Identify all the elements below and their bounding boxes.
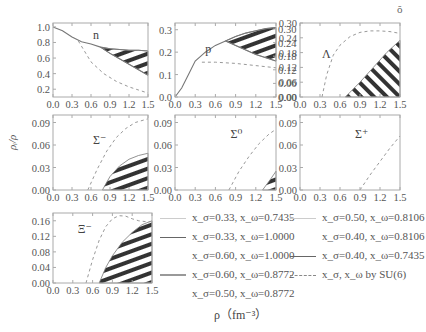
y-tick-label: 0.06 — [279, 140, 297, 151]
x-tick-label: 0.6 — [84, 99, 97, 110]
panel-label: p — [205, 42, 211, 56]
su6-dashed-line — [202, 62, 276, 68]
legend-line-swatch — [160, 294, 186, 295]
legend-line-swatch — [290, 256, 316, 257]
legend-entry: x_σ=0.40, x_ω=0.7435 — [290, 249, 425, 261]
x-tick-label: 0.3 — [189, 192, 202, 203]
x-tick-label: 0.3 — [313, 192, 326, 203]
legend-entry: x_σ=0.40, x_ω=0.8106 — [290, 230, 425, 242]
y-tick-label: 0.09 — [32, 118, 50, 129]
y-tick-label: 0.00 — [279, 185, 297, 196]
panel-label: Σ⁺ — [355, 127, 368, 141]
hatched-band — [345, 40, 400, 97]
legend-line-swatch — [160, 256, 186, 257]
panel-sigma0: 0.00.30.60.91.21.50.000.030.060.09Σ⁰ — [154, 115, 283, 203]
x-tick-label: 1.2 — [126, 285, 139, 296]
x-tick-label: 0.3 — [313, 99, 326, 110]
legend-label: x_σ=0.50, x_ω=0.8106 — [322, 211, 425, 223]
y-tick-label: 0.1 — [159, 70, 172, 81]
y-tick-label: 0.09 — [154, 118, 172, 129]
legend-line-swatch — [160, 218, 186, 219]
panel-label: Σ⁰ — [231, 127, 243, 141]
legend-label: x_σ=0.50, x_ω=0.8772 — [192, 287, 295, 299]
x-tick-label: 1.5 — [141, 192, 154, 203]
legend-label: x_σ=0.33, x_ω=1.0000 — [192, 230, 295, 242]
y-tick-label: 0.00 — [32, 185, 50, 196]
x-tick-label: 0.3 — [65, 192, 78, 203]
x-tick-label: 0.9 — [103, 192, 116, 203]
x-tick-label: 1.5 — [393, 192, 406, 203]
x-tick-label: 1.5 — [393, 99, 406, 110]
x-tick-label: 1.5 — [145, 285, 158, 296]
x-tick-label: 0.6 — [209, 192, 222, 203]
legend-line-swatch — [290, 275, 316, 276]
legend-entry: x_σ=0.33, x_ω=0.7435 — [160, 211, 295, 223]
x-tick-label: 0.3 — [189, 99, 202, 110]
panel-n: 0.00.30.60.91.21.50.20.40.60.81.0n — [37, 22, 155, 110]
panel-frame — [175, 115, 276, 190]
x-tick-label: 0.9 — [353, 192, 366, 203]
x-tick-label: 0.9 — [353, 99, 366, 110]
y-tick-label: 0.06 — [154, 140, 172, 151]
legend-entry: x_σ=0.60, x_ω=0.8772 — [160, 268, 295, 280]
y-tick-label: 0.09 — [279, 118, 297, 129]
legend-label: x_σ=0.40, x_ω=0.7435 — [322, 249, 425, 261]
x-tick-label: 0.9 — [229, 192, 242, 203]
y-tick-label: 0.06 — [32, 140, 50, 151]
x-tick-label: 1.2 — [249, 99, 262, 110]
panel-lambda: 0.00.30.60.91.21.50.000.060.120.180.240.… — [279, 18, 407, 110]
x-tick-label: 0.0 — [46, 99, 59, 110]
panel-sigma+: 0.00.30.60.91.21.50.000.030.060.09Σ⁺ — [279, 115, 407, 203]
y-tick-label: 0.2 — [37, 84, 50, 95]
legend-label: x_σ=0.33, x_ω=0.7435 — [192, 211, 295, 223]
corner-mark: ŏ — [397, 3, 403, 15]
x-tick-label: 0.6 — [209, 99, 222, 110]
legend-line-swatch — [160, 237, 186, 238]
x-tick-label: 0.3 — [66, 285, 79, 296]
panel-label: Σ⁻ — [93, 133, 106, 147]
panel-label: Λ — [322, 47, 331, 61]
y-tick-label: 0.24 — [279, 33, 298, 44]
legend-entry: x_σ=0.50, x_ω=0.8106 — [290, 211, 425, 223]
x-axis-label: ρ（fm⁻³） — [214, 305, 267, 323]
hatched-band — [102, 153, 148, 190]
legend-label: x_σ=0.60, x_ω=1.0000 — [192, 249, 295, 261]
x-tick-label: 0.6 — [84, 192, 97, 203]
legend-entry: x_σ=0.60, x_ω=1.0000 — [160, 249, 295, 261]
x-tick-label: 1.2 — [122, 99, 135, 110]
y-tick-label: 0.03 — [279, 163, 297, 174]
y-tick-label: 0.12 — [279, 62, 297, 73]
x-tick-label: 0.6 — [333, 99, 346, 110]
hatched-band — [263, 171, 276, 190]
y-tick-label: 0.30 — [279, 18, 297, 29]
x-tick-label: 1.2 — [122, 192, 135, 203]
y-tick-label: 0.00 — [154, 185, 172, 196]
y-tick-label: 0.18 — [279, 48, 297, 59]
hatched-band — [99, 221, 152, 283]
x-tick-label: 1.2 — [249, 192, 262, 203]
x-tick-label: 1.5 — [141, 99, 154, 110]
panel-xi-: 0.00.30.60.91.21.50.000.040.080.120.16Ξ⁻ — [32, 213, 159, 296]
panel-p: 0.00.30.60.91.21.50.00.10.20.30.000.060.… — [159, 23, 297, 110]
legend-entry: x_σ, x_ω by SU(6) — [290, 268, 406, 280]
y-tick-label: 0.03 — [32, 163, 50, 174]
legend-entry: x_σ=0.50, x_ω=0.8772 — [160, 287, 295, 299]
chart-canvas: 0.00.30.60.91.21.50.20.40.60.81.0n0.00.3… — [0, 0, 426, 332]
legend-label: x_σ, x_ω by SU(6) — [322, 268, 406, 280]
y-tick-label: 0.3 — [159, 25, 172, 36]
y-tick-label: 0.12 — [32, 231, 50, 242]
y-tick-label: 0.00 — [32, 278, 50, 289]
y-axis-label: ρᵢ/ρ — [6, 135, 18, 150]
legend-line-swatch — [290, 218, 316, 219]
legend-line-swatch — [290, 237, 316, 238]
y-tick-label: 0.2 — [159, 47, 172, 58]
x-tick-label: 0.9 — [103, 99, 116, 110]
panel-label: Ξ⁻ — [78, 222, 92, 236]
y-tick-label: 0.4 — [37, 69, 51, 80]
y-tick-label: 0.16 — [32, 216, 50, 227]
x-tick-label: 1.2 — [373, 99, 386, 110]
x-tick-label: 0.9 — [229, 99, 242, 110]
y-tick-label: 0.06 — [279, 77, 297, 88]
y-tick-label: 0.03 — [154, 163, 172, 174]
legend-label: x_σ=0.40, x_ω=0.8106 — [322, 230, 425, 242]
